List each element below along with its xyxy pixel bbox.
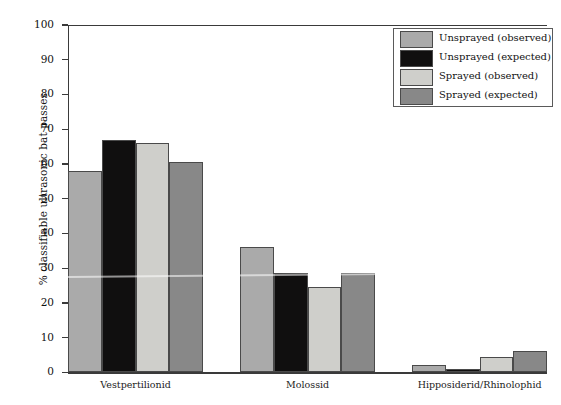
bar	[240, 247, 274, 372]
legend-swatch-icon	[400, 31, 433, 48]
y-tick-label: 10	[8, 331, 54, 343]
x-axis-label-3: Hipposiderid/Rhinolophid	[390, 379, 561, 390]
x-axis-label-2: Molossid	[218, 379, 398, 390]
legend-item: Sprayed (expected)	[394, 87, 552, 106]
y-tick-label: 80	[8, 87, 54, 99]
legend-item-label: Sprayed (expected)	[439, 89, 538, 100]
legend-swatch-icon	[400, 69, 433, 86]
legend-item-label: Unsprayed (observed)	[439, 32, 551, 43]
legend-swatch-icon	[400, 88, 433, 105]
y-tick-label: 100	[8, 18, 54, 30]
bar	[274, 273, 308, 372]
x-axis-line	[68, 372, 547, 373]
y-tick-label: 30	[8, 261, 54, 273]
y-tick-label: 60	[8, 157, 54, 169]
y-tick-mark	[62, 129, 68, 130]
chart-legend: Unsprayed (observed)Unsprayed (expected)…	[393, 28, 553, 107]
bar-chart: % classifiable ultrasonic bat passes 010…	[0, 0, 561, 405]
legend-item-label: Unsprayed (expected)	[439, 51, 551, 62]
y-tick-mark	[62, 59, 68, 60]
bar	[102, 140, 136, 373]
bar	[136, 143, 170, 372]
bar	[513, 351, 547, 373]
bar	[446, 369, 480, 372]
bar	[412, 365, 446, 373]
legend-swatch-icon	[400, 50, 433, 67]
legend-item-label: Sprayed (observed)	[439, 70, 538, 81]
y-tick-mark	[62, 163, 68, 164]
y-tick-label: 50	[8, 192, 54, 204]
y-tick-mark	[62, 94, 68, 95]
y-tick-label: 40	[8, 226, 54, 238]
bar	[480, 357, 514, 372]
y-tick-mark	[62, 24, 68, 25]
x-axis-label-1: Vestpertilionid	[46, 379, 226, 390]
bar	[68, 171, 102, 372]
bar	[169, 162, 203, 372]
bar	[308, 287, 342, 372]
y-tick-label: 70	[8, 122, 54, 134]
bar	[341, 273, 375, 372]
legend-item: Unsprayed (observed)	[394, 30, 552, 49]
y-tick-label: 20	[8, 296, 54, 308]
legend-item: Sprayed (observed)	[394, 68, 552, 87]
legend-item: Unsprayed (expected)	[394, 49, 552, 68]
y-tick-label: 0	[8, 365, 54, 377]
y-tick-label: 90	[8, 53, 54, 65]
